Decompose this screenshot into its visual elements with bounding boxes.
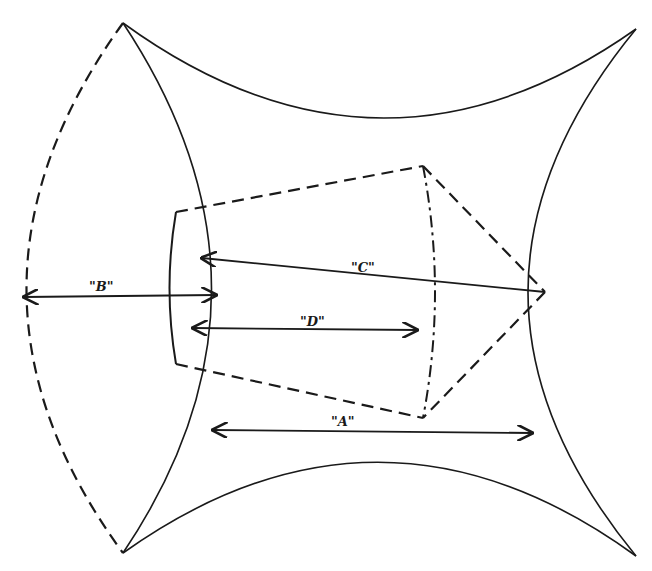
- outer-top-arc: [123, 23, 636, 118]
- dimension-arrow-b: [24, 295, 216, 297]
- apex-upper-edge: [423, 166, 545, 292]
- apex-lower-edge: [423, 292, 545, 418]
- diagram-canvas: "A" "B" "C" "D": [0, 0, 652, 571]
- label-b: "B": [89, 279, 114, 294]
- dimension-arrow-a: [213, 430, 532, 433]
- trapezoid-top-edge: [176, 166, 423, 212]
- trapezoid-bottom-edge: [176, 364, 423, 418]
- label-a: "A": [331, 414, 355, 429]
- trapezoid-left-edge: [170, 212, 177, 364]
- label-c: "C": [351, 260, 375, 275]
- trapezoid-right-arc: [423, 166, 435, 418]
- outer-left-inner-arc: [123, 23, 212, 553]
- label-d: "D": [300, 314, 325, 329]
- outer-bottom-arc: [123, 462, 636, 556]
